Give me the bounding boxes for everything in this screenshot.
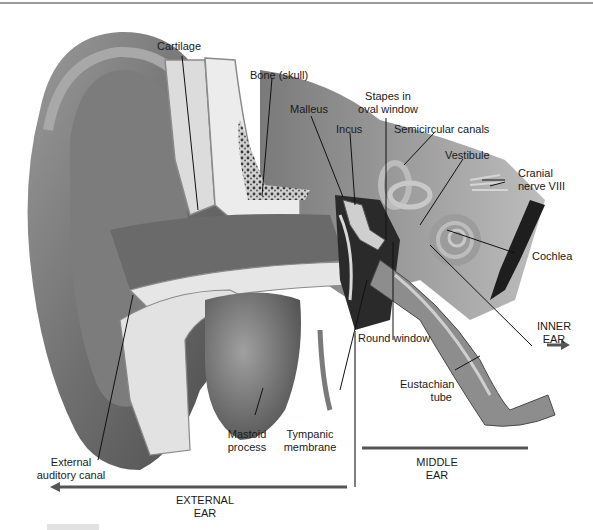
label-eustachian-tube: Eustachian tube: [400, 378, 452, 404]
label-inner-ear: INNER EAR: [532, 320, 576, 346]
external-ear-arrow-head: [50, 482, 60, 492]
label-round-window: Round window: [358, 332, 430, 345]
styloid: [320, 330, 330, 410]
label-external-ear: EXTERNAL EAR: [175, 494, 235, 520]
label-cartilage: Cartilage: [157, 40, 201, 53]
label-mastoid-process: Mastoid process: [222, 428, 272, 454]
label-malleus: Malleus: [290, 103, 328, 116]
label-cochlea: Cochlea: [532, 250, 572, 263]
label-vestibule: Vestibule: [445, 149, 490, 162]
label-bone-skull: Bone (skull): [250, 69, 308, 82]
label-incus: Incus: [336, 123, 362, 136]
figure-tab: [47, 524, 99, 530]
mastoid: [205, 293, 301, 441]
label-middle-ear: MIDDLE EAR: [412, 456, 462, 482]
label-semicircular-canals: Semicircular canals: [394, 123, 489, 136]
label-tympanic-membrane: Tympanic membrane: [282, 428, 338, 454]
label-external-auditory-canal: External auditory canal: [36, 456, 106, 482]
label-stapes: Stapes in oval window: [358, 90, 418, 116]
label-cranial-nerve: Cranial nerve VIII: [518, 167, 565, 193]
